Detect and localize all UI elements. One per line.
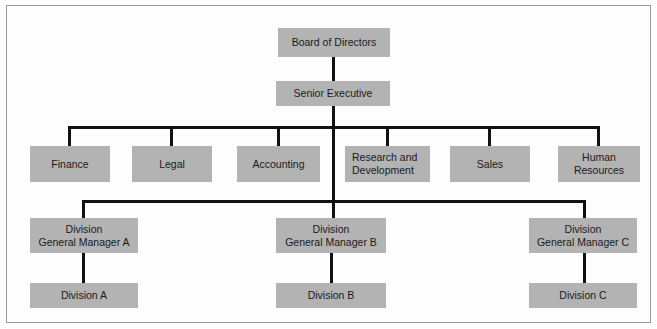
node-division-a-label: Division A [30, 289, 138, 302]
node-division-c-label: Division C [529, 289, 637, 302]
connector-dgm-b-to-division-b [330, 253, 333, 283]
node-research-development-line1: Research and [352, 151, 430, 164]
connector-board-to-senior [332, 57, 335, 81]
node-division-general-manager-c[interactable]: Division General Manager C [529, 218, 637, 253]
node-dgm-c-label: Division General Manager C [529, 223, 637, 249]
node-division-a[interactable]: Division A [30, 283, 138, 308]
node-division-b-label: Division B [276, 289, 386, 302]
node-human-resources-line1: Human [558, 151, 640, 164]
node-dgm-b-line1: Division [276, 223, 386, 236]
node-senior-executive-label: Senior Executive [276, 87, 390, 100]
node-research-development-line2: Development [352, 164, 430, 177]
node-dgm-c-line1: Division [529, 223, 637, 236]
node-human-resources-line2: Resources [558, 164, 640, 177]
node-dgm-a-line1: Division [30, 223, 138, 236]
node-research-and-development[interactable]: Research and Development [345, 146, 430, 182]
node-accounting[interactable]: Accounting [237, 146, 320, 182]
node-division-c[interactable]: Division C [529, 283, 637, 308]
node-board-label: Board of Directors [278, 36, 390, 49]
org-chart: Board of Directors Senior Executive Fina… [0, 0, 657, 329]
node-division-b[interactable]: Division B [276, 283, 386, 308]
node-accounting-label: Accounting [237, 158, 320, 171]
connector-dgm-a-to-division-a [82, 253, 85, 283]
connector-drop-research-development [386, 126, 389, 146]
connector-drop-dgm-c [583, 200, 586, 218]
connector-drop-legal [170, 126, 173, 146]
node-sales-label: Sales [450, 158, 530, 171]
node-dgm-c-line2: General Manager C [529, 236, 637, 249]
connector-dgm-c-to-division-c [583, 253, 586, 283]
node-finance[interactable]: Finance [30, 146, 110, 182]
connector-drop-human-resources [597, 126, 600, 146]
node-division-general-manager-a[interactable]: Division General Manager A [30, 218, 138, 253]
node-division-general-manager-b[interactable]: Division General Manager B [276, 218, 386, 253]
connector-drop-sales [488, 126, 491, 146]
node-sales[interactable]: Sales [450, 146, 530, 182]
node-legal[interactable]: Legal [132, 146, 212, 182]
node-dgm-a-line2: General Manager A [30, 236, 138, 249]
node-dgm-b-label: Division General Manager B [276, 223, 386, 249]
node-senior-executive[interactable]: Senior Executive [276, 81, 390, 106]
node-human-resources-label: Human Resources [558, 151, 640, 177]
connector-drop-dgm-a [82, 200, 85, 218]
connector-departments-bus [68, 126, 600, 129]
node-research-development-label: Research and Development [352, 151, 430, 177]
node-board-of-directors[interactable]: Board of Directors [278, 28, 390, 57]
connector-drop-finance [68, 126, 71, 146]
connector-divisions-bus [82, 200, 586, 203]
node-finance-label: Finance [30, 158, 110, 171]
node-legal-label: Legal [132, 158, 212, 171]
connector-drop-accounting [277, 126, 280, 146]
node-dgm-b-line2: General Manager B [276, 236, 386, 249]
node-dgm-a-label: Division General Manager A [30, 223, 138, 249]
node-human-resources[interactable]: Human Resources [558, 146, 640, 182]
